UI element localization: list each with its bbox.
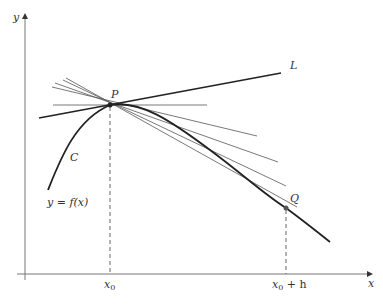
secant-tangent-diagram: y x L C y = f(x) P Q x0 x0 + h [0,0,383,306]
secant-lines [52,78,297,207]
x0-tick-label: x0 [104,278,115,292]
y-axis-label: y [12,11,20,24]
secant-line-4 [66,78,297,207]
point-P [108,103,113,108]
curve-C [48,104,330,242]
point-P-label: P [110,88,119,101]
x-axis-label: x [368,277,375,290]
secant-line-3 [63,80,286,186]
secant-line-1 [52,87,257,136]
point-Q-label: Q [290,192,299,205]
tangent-label: L [289,59,297,72]
point-Q [284,206,289,211]
curve-equation: y = f(x) [46,196,88,209]
tangent-line-L [39,73,281,118]
x0h-tick-label: x0 + h [272,278,307,292]
curve-label: C [70,151,79,164]
